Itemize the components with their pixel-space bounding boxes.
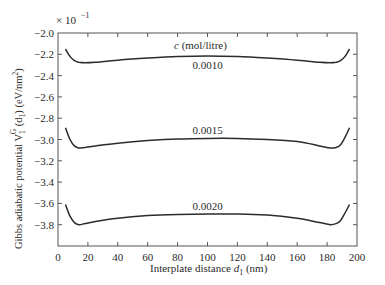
x-tick-label: 0 [55,251,61,263]
series-label: 0.0020 [192,200,223,212]
x-axis-label: Interplate distance d1 (nm) [150,262,268,277]
y-tick-label: −2.4 [34,70,54,82]
y-tick-label: −2.6 [34,91,54,103]
series-label: 0.0010 [192,59,223,71]
curves [66,49,350,225]
x-tick-label: 160 [289,251,306,263]
multiplier-exponent: −1 [81,11,90,20]
y-multiplier: × 10 −1 [56,11,90,26]
x-tick-label: 200 [349,251,366,263]
multiplier-prefix: × 10 [56,14,76,26]
x-tick-label: 180 [319,251,336,263]
y-tick-label: −2.8 [34,112,54,124]
y-axis-label: Gibbs adiabatic potential V1G (d1) (eV/n… [9,68,27,249]
series-labels: 0.00100.00150.0020 [192,59,223,212]
series-label: 0.0015 [192,124,223,136]
x-tick-label: 20 [82,251,94,263]
y-tick-label: −2.0 [34,27,54,39]
y-tick-label: −2.2 [34,48,54,60]
y-tick-label: −3.0 [34,134,54,146]
legend-title: c (mol/litre) [174,39,227,52]
y-tick-label: −3.4 [34,176,54,188]
y-tick-label: −3.2 [34,155,54,167]
y-tick-label: −3.6 [34,197,54,209]
y-tick-label: −3.8 [34,219,54,231]
x-tick-label: 40 [112,251,124,263]
line-chart: × 10 −1 020406080100120140160180200−2.0−… [0,0,385,285]
